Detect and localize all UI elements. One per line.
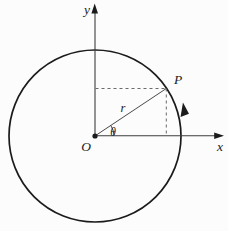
radius-line	[96, 89, 167, 136]
y-axis-arrowhead-icon	[91, 4, 98, 14]
origin-label: O	[81, 139, 91, 154]
origin-dot	[92, 133, 97, 138]
x-axis-label: x	[216, 139, 223, 154]
circle-direction-arrowhead-icon	[179, 102, 190, 117]
point-p-label: P	[173, 72, 182, 87]
diagram-canvas: y x P r θ O	[0, 0, 228, 231]
circle-diagram: y x P r θ O	[0, 0, 228, 231]
radius-label: r	[121, 101, 126, 115]
y-axis-label: y	[82, 2, 90, 17]
angle-label: θ	[110, 126, 116, 138]
